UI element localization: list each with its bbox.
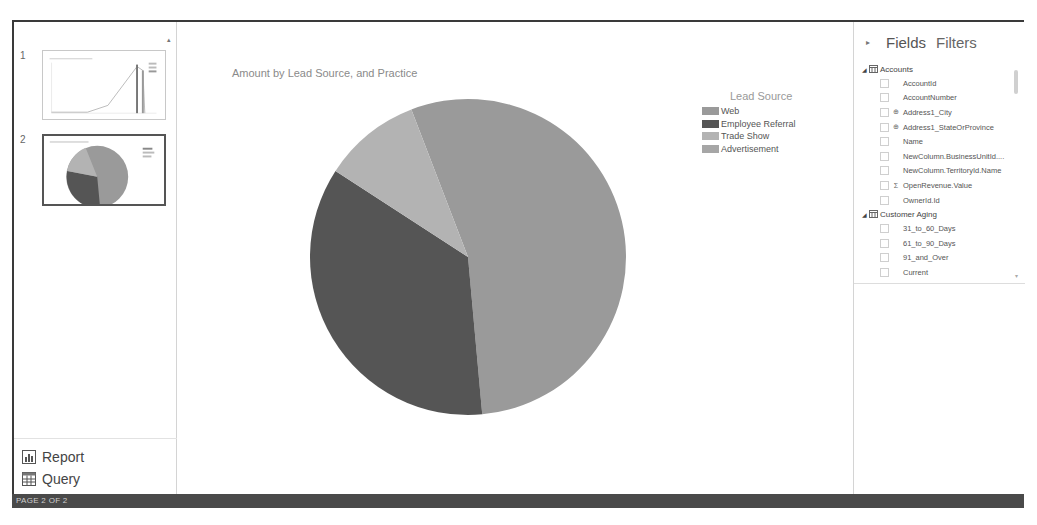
page-number: 2 <box>20 134 26 145</box>
field-name: Address1_StateOrProvince <box>903 123 994 132</box>
table-name: Accounts <box>880 65 913 74</box>
field-checkbox[interactable] <box>880 196 889 205</box>
report-canvas[interactable]: Amount by Lead Source, and Practice Lead… <box>178 22 853 494</box>
tab-fields[interactable]: Fields <box>886 34 926 51</box>
field-name: NewColumn.TerritoryId.Name <box>903 166 1001 175</box>
field-name: 91_and_Over <box>903 253 948 262</box>
field-name: 61_to_90_Days <box>903 239 956 248</box>
field-name: OwnerId.Id <box>903 196 940 205</box>
field-name: Address1_City <box>903 108 952 117</box>
field-checkbox[interactable] <box>880 152 889 161</box>
legend-swatch <box>702 132 719 140</box>
field-item[interactable]: NewColumn.BusinessUnitId.... <box>854 149 1025 164</box>
field-name: NewColumn.BusinessUnitId.... <box>903 152 1004 161</box>
page-number: 1 <box>20 50 26 61</box>
table-icon <box>869 210 878 218</box>
legend-label: Employee Referral <box>721 119 796 129</box>
field-checkbox[interactable] <box>880 166 889 175</box>
report-view-button[interactable]: Report <box>22 447 84 467</box>
status-bar: PAGE 2 OF 2 <box>12 494 1024 508</box>
app-window: ▴ 1 2 <box>12 20 1024 508</box>
field-checkbox[interactable] <box>880 224 889 233</box>
legend-swatch <box>702 107 719 115</box>
field-item[interactable]: NewColumn.TerritoryId.Name <box>854 164 1025 179</box>
field-checkbox[interactable] <box>880 181 889 190</box>
field-list[interactable]: ◢AccountsAccountIdAccountNumber⊕Address1… <box>854 62 1025 284</box>
legend-item-employee-referral[interactable]: Employee Referral <box>702 118 796 131</box>
legend-item-trade-show[interactable]: Trade Show <box>702 130 796 143</box>
pie-chart[interactable] <box>306 95 630 419</box>
tab-filters[interactable]: Filters <box>936 34 977 51</box>
legend-title: Lead Source <box>730 90 796 102</box>
fields-pane: ▸ Fields Filters ◢AccountsAccountIdAccou… <box>853 22 1024 494</box>
table-name: Customer Aging <box>880 210 937 219</box>
field-checkbox[interactable] <box>880 239 889 248</box>
chart-legend: Lead Source Web Employee Referral Trade … <box>702 90 796 155</box>
field-item[interactable]: ⊕Address1_StateOrProvince <box>854 120 1025 135</box>
field-item[interactable]: ΣOpenRevenue.Value <box>854 178 1025 193</box>
legend-label: Advertisement <box>721 144 779 154</box>
field-name: Current <box>903 268 928 277</box>
field-checkbox[interactable] <box>880 268 889 277</box>
scroll-down-icon[interactable]: ▾ <box>1015 272 1018 279</box>
field-checkbox[interactable] <box>880 93 889 102</box>
field-item[interactable]: AccountId <box>854 76 1025 91</box>
report-icon <box>22 450 36 464</box>
pane-header: ▸ Fields Filters <box>866 34 977 51</box>
field-name: AccountNumber <box>903 93 957 102</box>
field-checkbox[interactable] <box>880 108 889 117</box>
query-table-icon <box>22 472 36 486</box>
legend-label: Trade Show <box>721 131 769 141</box>
sigma-icon: Σ <box>892 182 900 189</box>
field-name: 31_to_60_Days <box>903 224 956 233</box>
expand-triangle-icon[interactable]: ◢ <box>862 66 868 73</box>
expand-triangle-icon[interactable]: ◢ <box>862 211 868 218</box>
field-checkbox[interactable] <box>880 79 889 88</box>
legend-item-advertisement[interactable]: Advertisement <box>702 143 796 156</box>
field-item[interactable]: Name <box>854 134 1025 149</box>
collapse-pages-icon[interactable]: ▴ <box>167 36 171 44</box>
query-label: Query <box>42 471 80 487</box>
field-item[interactable]: 31_to_60_Days <box>854 221 1025 236</box>
field-name: Name <box>903 137 923 146</box>
legend-label: Web <box>721 106 739 116</box>
collapse-pane-icon[interactable]: ▸ <box>866 38 870 47</box>
query-view-button[interactable]: Query <box>22 469 80 489</box>
table-node-customer-aging[interactable]: ◢Customer Aging <box>854 207 1025 221</box>
line-chart-thumbnail-icon[interactable] <box>42 50 166 120</box>
field-name: AccountId <box>903 79 936 88</box>
legend-swatch <box>702 145 719 153</box>
field-item[interactable]: OwnerId.Id <box>854 193 1025 208</box>
report-label: Report <box>42 449 84 465</box>
field-checkbox[interactable] <box>880 137 889 146</box>
legend-swatch <box>702 120 719 128</box>
field-item[interactable]: ⊕Address1_City <box>854 105 1025 120</box>
pages-panel: ▴ 1 2 <box>14 22 177 494</box>
globe-icon: ⊕ <box>892 123 900 131</box>
field-checkbox[interactable] <box>880 123 889 132</box>
table-node-accounts[interactable]: ◢Accounts <box>854 62 1025 76</box>
view-switcher: Report Query <box>14 438 177 494</box>
pie-chart-thumbnail-icon[interactable] <box>42 134 166 206</box>
chart-title: Amount by Lead Source, and Practice <box>232 67 417 79</box>
field-item[interactable]: 61_to_90_Days <box>854 236 1025 251</box>
field-item[interactable]: 91_and_Over <box>854 251 1025 266</box>
globe-icon: ⊕ <box>892 108 900 116</box>
field-item[interactable]: AccountNumber <box>854 91 1025 106</box>
field-checkbox[interactable] <box>880 253 889 262</box>
field-list-scrollbar[interactable] <box>1014 70 1018 94</box>
field-name: OpenRevenue.Value <box>903 181 972 190</box>
field-item[interactable]: Current <box>854 265 1025 280</box>
legend-item-web[interactable]: Web <box>702 105 796 118</box>
table-icon <box>869 65 878 73</box>
